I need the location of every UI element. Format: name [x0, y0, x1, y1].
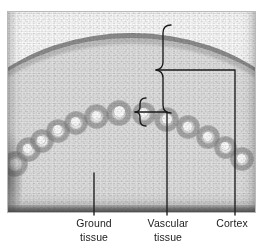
- label-vascular-tissue: Vascular tissue: [122, 217, 214, 244]
- micrograph-frame: [7, 11, 256, 213]
- label-cortex: Cortex: [203, 217, 261, 231]
- slide-bottom-edge: [8, 205, 255, 212]
- figure-root: Ground tissue Vascular tissue Cortex: [0, 0, 262, 251]
- micrograph-image: [8, 12, 255, 212]
- slide-edge-shadow: [8, 128, 24, 212]
- film-grain-layer: [8, 12, 255, 212]
